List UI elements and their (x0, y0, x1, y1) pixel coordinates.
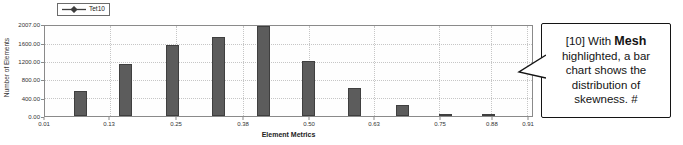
x-tick-label: 0.75 (434, 121, 446, 127)
y-axis-labels: 2007.001600.001200.00800.00400.000.00 (0, 25, 44, 117)
bar (166, 45, 179, 116)
x-tick-label: 0.25 (170, 121, 182, 127)
x-axis-title: Element Metrics (44, 131, 533, 138)
bar (396, 105, 409, 116)
y-tick-label: 1600.00 (18, 41, 40, 47)
y-tick-label: 2007.00 (18, 22, 40, 28)
figure: Tet10 Number of Elements 2007.001600.001… (0, 0, 683, 145)
legend-label: Tet10 (89, 6, 105, 13)
bar (74, 91, 87, 116)
legend-marker-icon (62, 6, 86, 13)
x-tick-mark (440, 117, 441, 120)
annotation-callout: [10] With Mesh highlighted, a bar chart … (541, 23, 671, 118)
plot-area (44, 25, 533, 117)
annotation-rest: highlighted, a bar chart shows the distr… (562, 50, 650, 106)
x-tick-label: 0.50 (303, 121, 315, 127)
x-tick-label: 0.91 (522, 121, 534, 127)
y-tick-label: 800.00 (22, 77, 40, 83)
x-tick-label: 0.38 (237, 121, 249, 127)
x-tick-label: 0.88 (486, 121, 498, 127)
bar (302, 61, 315, 116)
x-tick-mark (44, 117, 45, 120)
x-tick-mark (176, 117, 177, 120)
y-tick-label: 400.00 (22, 96, 40, 102)
bar (212, 37, 225, 116)
y-tick-label: 1200.00 (18, 59, 40, 65)
bar (439, 114, 452, 116)
bar (482, 114, 495, 116)
legend: Tet10 (57, 3, 110, 16)
x-tick-mark (528, 117, 529, 120)
x-tick-mark (109, 117, 110, 120)
bar-chart: Tet10 Number of Elements 2007.001600.001… (0, 0, 545, 145)
bars (45, 26, 532, 116)
annotation-bold: Mesh (614, 34, 646, 48)
x-tick-mark (243, 117, 244, 120)
x-tick-mark (491, 117, 492, 120)
x-tick-label: 0.13 (103, 121, 115, 127)
bar (348, 88, 361, 116)
y-tick-label: 0.00 (28, 114, 40, 120)
bar (257, 26, 270, 116)
bar (119, 64, 132, 116)
x-tick-mark (374, 117, 375, 120)
x-tick-label: 0.01 (38, 121, 50, 127)
x-axis-labels: 0.010.130.250.380.500.630.750.880.91 (44, 117, 533, 131)
annotation-prefix: [10] With (566, 35, 615, 47)
callout-pointer (512, 48, 546, 82)
x-tick-label: 0.63 (368, 121, 380, 127)
annotation-text: [10] With Mesh highlighted, a bar chart … (550, 34, 662, 107)
x-tick-mark (309, 117, 310, 120)
